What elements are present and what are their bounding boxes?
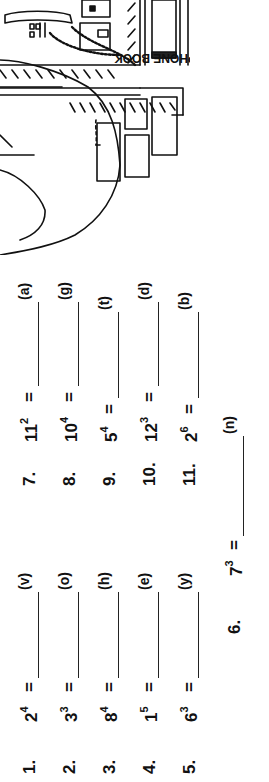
- answer-blank[interactable]: [78, 592, 79, 678]
- answer-blank[interactable]: [118, 592, 119, 678]
- answer-blank[interactable]: [158, 592, 159, 678]
- problem-2: 2. 33 = (o): [56, 554, 86, 774]
- answer-blank[interactable]: [38, 302, 39, 386]
- problem-7: 7. 112 = (a): [16, 256, 46, 486]
- letter-code: (y): [176, 573, 192, 590]
- equals-sign: =: [20, 682, 40, 692]
- problem-number: 9.: [100, 472, 120, 486]
- answer-blank[interactable]: [38, 592, 39, 678]
- letter-code: (v): [16, 573, 32, 590]
- answer-blank[interactable]: [118, 312, 119, 398]
- problem-expression: 54: [100, 426, 122, 442]
- problem-number: 1.: [20, 760, 40, 774]
- problem-6: 6. 73 = (n): [221, 404, 251, 634]
- problem-expression: 33: [60, 706, 82, 722]
- problem-4: 4. 15 = (e): [136, 554, 166, 774]
- answer-blank[interactable]: [158, 302, 159, 386]
- equals-sign: =: [225, 540, 245, 550]
- problem-number: 10.: [140, 462, 160, 486]
- problem-number: 2.: [60, 760, 80, 774]
- equals-sign: =: [60, 392, 80, 402]
- phone-book-label: PHONE BOOK: [114, 51, 190, 65]
- problem-expression: 15: [140, 706, 162, 722]
- letter-code: (t): [96, 296, 112, 310]
- equals-sign: =: [180, 682, 200, 692]
- problem-9: 9. 54 = (t): [96, 256, 126, 486]
- answer-blank[interactable]: [243, 436, 244, 536]
- letter-code: (g): [56, 282, 72, 300]
- problem-expression: 63: [180, 706, 202, 722]
- letter-code: (d): [136, 282, 152, 300]
- equals-sign: =: [20, 392, 40, 402]
- problem-number: 6.: [225, 620, 245, 634]
- problem-5: 5. 63 = (y): [176, 554, 206, 774]
- phone-booth-illustration: PHONE BOOK: [0, 0, 190, 255]
- letter-code: (a): [16, 283, 32, 300]
- letter-code: (e): [136, 573, 152, 590]
- answer-blank[interactable]: [198, 312, 199, 398]
- letter-code: (o): [56, 572, 72, 590]
- worksheet-page: 1. 24 = (v) 2. 33 = (o) 3. 84 = (h) 4. 1…: [0, 0, 269, 782]
- problem-expression: 26: [180, 426, 202, 442]
- problem-expression: 24: [20, 706, 42, 722]
- answer-blank[interactable]: [198, 592, 199, 678]
- equals-sign: =: [60, 682, 80, 692]
- problem-1: 1. 24 = (v): [16, 554, 46, 774]
- letter-code: (n): [221, 416, 237, 434]
- equals-sign: =: [180, 404, 200, 414]
- problem-10: 10. 123 = (d): [136, 256, 166, 486]
- problem-3: 3. 84 = (h): [96, 554, 126, 774]
- problem-11: 11. 26 = (b): [176, 256, 206, 486]
- answer-blank[interactable]: [78, 302, 79, 386]
- problem-expression: 104: [60, 417, 82, 442]
- letter-code: (h): [96, 572, 112, 590]
- problem-number: 4.: [140, 760, 160, 774]
- equals-sign: =: [140, 682, 160, 692]
- problem-number: 3.: [100, 760, 120, 774]
- equals-sign: =: [140, 392, 160, 402]
- problem-expression: 123: [140, 417, 162, 442]
- problem-number: 5.: [180, 760, 200, 774]
- equals-sign: =: [100, 682, 120, 692]
- problem-number: 11.: [180, 463, 200, 486]
- problem-expression: 73: [225, 560, 247, 576]
- letter-code: (b): [176, 292, 192, 310]
- problem-number: 7.: [20, 472, 40, 486]
- problem-expression: 84: [100, 706, 122, 722]
- problem-8: 8. 104 = (g): [56, 256, 86, 486]
- problem-number: 8.: [60, 472, 80, 486]
- equals-sign: =: [100, 404, 120, 414]
- problem-expression: 112: [20, 418, 42, 442]
